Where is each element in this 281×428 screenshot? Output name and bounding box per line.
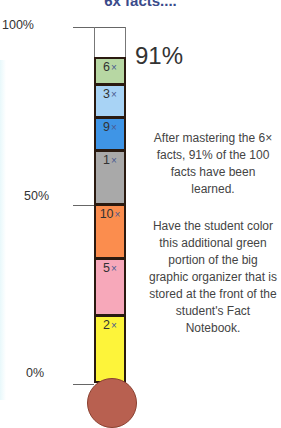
segment-label: 2 <box>103 318 110 332</box>
thermometer-bulb <box>87 378 137 428</box>
segment-5x: 5× <box>94 258 126 316</box>
left-panel-decoration <box>0 60 6 400</box>
segment-label: 3 <box>103 87 110 101</box>
segment-label: 1 <box>103 153 110 167</box>
segment-label: 5 <box>103 261 110 275</box>
page-title: 6x facts.... <box>0 0 281 9</box>
segment-1x: 1× <box>94 150 126 205</box>
description-mastery: After mastering the 6× facts, 91% of the… <box>148 130 278 198</box>
axis-label-50: 50% <box>24 189 49 203</box>
segment-9x: 9× <box>94 117 126 151</box>
tick-0 <box>73 384 94 385</box>
times-icon: × <box>111 155 117 166</box>
times-icon: × <box>111 89 117 100</box>
segment-6x: 6× <box>94 57 126 85</box>
times-icon: × <box>111 320 117 331</box>
times-icon: × <box>115 209 121 220</box>
segment-2x: 2× <box>94 315 126 383</box>
segment-3x: 3× <box>94 84 126 118</box>
segment-10x: 10× <box>94 204 126 259</box>
segment-label: 10 <box>100 207 114 221</box>
segment-label: 6 <box>103 60 110 74</box>
tick-50 <box>73 205 94 206</box>
times-icon: × <box>111 263 117 274</box>
description-instructions: Have the student color this additional g… <box>148 218 278 337</box>
segment-label: 9 <box>103 120 110 134</box>
times-icon: × <box>111 122 117 133</box>
times-icon: × <box>111 62 117 73</box>
current-percent: 91% <box>135 42 183 70</box>
axis-label-100: 100% <box>2 18 34 32</box>
axis-label-0: 0% <box>26 366 44 380</box>
